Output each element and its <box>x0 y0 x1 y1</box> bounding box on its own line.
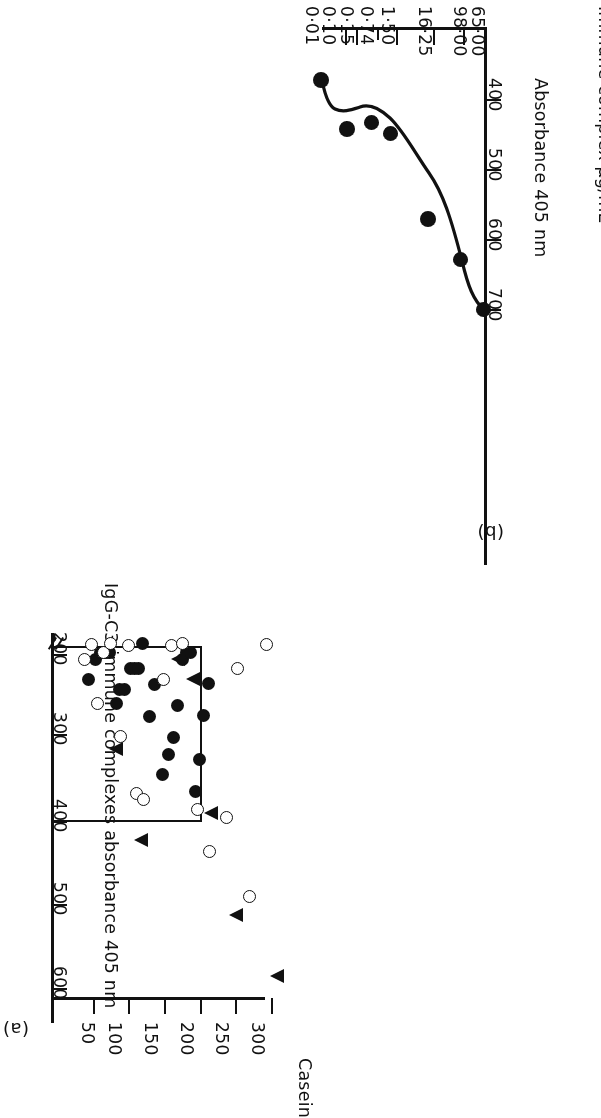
panel-b-point-9800 <box>476 302 491 317</box>
panel-a-filled-point <box>171 699 184 712</box>
panel-a-filled-point <box>136 637 149 650</box>
panel-a-y-label-500: 500 <box>50 882 70 916</box>
panel-a-open-point <box>157 673 170 686</box>
panel-a-open-point <box>220 811 233 824</box>
panel-a-open-point <box>176 637 189 650</box>
panel-a-triangle-point <box>204 806 218 820</box>
panel-b-point-1625 <box>420 211 436 227</box>
panel-a-filled-point <box>202 677 215 690</box>
panel-a-open-point <box>78 653 91 666</box>
panel-a-filled-point <box>132 662 145 675</box>
panel-b-curve <box>301 0 601 1118</box>
panel-a-open-point <box>243 890 256 903</box>
panel-a-x-tick-150 <box>164 998 166 1014</box>
panel-a-x-tick-250 <box>235 998 237 1014</box>
panel-a-triangle-point <box>134 833 148 847</box>
panel-a-triangle-point <box>186 672 200 686</box>
panel-a-open-point <box>203 845 216 858</box>
panel-a-x-tick-200 <box>200 998 202 1014</box>
panel-a-open-point <box>260 638 273 651</box>
panel-a-x-label-200: 200 <box>177 1022 197 1056</box>
panel-a-filled-point <box>118 683 131 696</box>
panel-b-point-150 <box>383 126 398 141</box>
panel-a-filled-point <box>156 768 169 781</box>
figure-rotation-wrapper: (b) 400 500 600 700 Absorbance 405 nm 98… <box>0 0 601 1118</box>
panel-a-filled-point <box>193 753 206 766</box>
panel-a-filled-point <box>143 710 156 723</box>
panel-a-open-point <box>104 637 117 650</box>
panel-a-filled-point <box>162 748 175 761</box>
panel-a-filled-point <box>167 731 180 744</box>
panel-a-open-point <box>85 638 98 651</box>
panel-a-triangle-point <box>109 742 123 756</box>
panel-a-x-axis-title: Casein-C3 - immune complexes absorbance … <box>295 1058 315 1118</box>
panel-a-tag: (a) <box>2 1019 29 1040</box>
panel-a-filled-point <box>189 785 202 798</box>
panel-a-triangle-point <box>229 908 243 922</box>
panel-a-x-tick-300 <box>271 998 273 1014</box>
panel-b-point-6500 <box>453 252 468 267</box>
panel-a-x-label-150: 150 <box>141 1022 161 1056</box>
panel-b-point-015 <box>339 121 355 137</box>
panel-a-open-point <box>122 639 135 652</box>
panel-a-open-point <box>137 793 150 806</box>
panel-a-x-tick-50 <box>93 998 95 1014</box>
panel-a-open-point <box>191 803 204 816</box>
panel-a-triangle-point <box>171 652 185 666</box>
panel-a-open-point <box>91 697 104 710</box>
panel-b-point-074 <box>364 115 379 130</box>
panel-a-x-label-300: 300 <box>248 1022 268 1056</box>
panel-a-x-label-50: 50 <box>78 1022 98 1044</box>
panel-a-x-label-250: 250 <box>212 1022 232 1056</box>
panel-a: (a) 600 500 400 300 200 IgG-C3-immune co… <box>0 0 301 1118</box>
panel-a-y-label-600: 600 <box>50 966 70 1000</box>
panel-a-filled-point <box>110 697 123 710</box>
panel-a-triangle-point <box>270 969 284 983</box>
panel-a-filled-point <box>197 709 210 722</box>
panel-a-x-label-100: 100 <box>105 1022 125 1056</box>
panel-a-filled-point <box>82 673 95 686</box>
panel-a-x-axis <box>52 998 265 1001</box>
panel-a-x-tick-100 <box>128 998 130 1014</box>
panel-b: (b) 400 500 600 700 Absorbance 405 nm 98… <box>301 0 601 1118</box>
panel-b-point-001 <box>313 72 329 88</box>
panel-a-open-point <box>231 662 244 675</box>
figure-root: (b) 400 500 600 700 Absorbance 405 nm 98… <box>0 0 601 1118</box>
